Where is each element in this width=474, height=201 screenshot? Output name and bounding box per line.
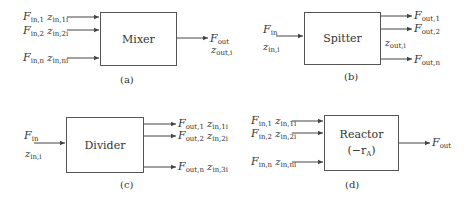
divider-label: Divider	[85, 139, 126, 152]
divider-output-2-label: Fout,2 zin,2i	[178, 130, 228, 143]
reactor-input-n-label: Fin,n zin,ni	[251, 156, 296, 169]
splitter-output-n-label: Fout,n	[414, 54, 440, 67]
reactor-output-label: Fout	[432, 137, 451, 150]
splitter-output-2-label: Fout,2	[414, 23, 440, 36]
mixer-output-z-label: zout,i	[211, 45, 232, 57]
divider-input-z-label: zin,i	[25, 149, 42, 161]
splitter-block: Spitter	[304, 12, 381, 65]
caption-d: (d)	[345, 179, 359, 190]
reactor-block: Reactor (−rA)	[324, 115, 399, 171]
reactor-label: Reactor	[340, 128, 384, 141]
mixer-block: Mixer	[100, 12, 177, 66]
splitter-shared-z-label: zout,i	[385, 39, 406, 50]
mixer-input-1-label: Fin,1 zin,1i	[23, 11, 68, 24]
caption-a: (a)	[120, 74, 134, 85]
splitter-label: Spitter	[323, 32, 362, 45]
caption-c: (c)	[120, 179, 133, 190]
mixer-label: Mixer	[122, 33, 155, 46]
splitter-input-F-label: Fin	[263, 24, 277, 37]
divider-input-F-label: Fin	[24, 130, 38, 143]
mixer-input-2-label: Fin,2 zin,2i	[23, 25, 68, 38]
divider-block: Divider	[66, 117, 144, 173]
splitter-input-z-label: zin,i	[263, 42, 280, 54]
reactor-rate-label: (−rA)	[347, 144, 375, 158]
reactor-input-2-label: Fin,2 zin,2i	[251, 128, 296, 141]
caption-b: (b)	[344, 71, 358, 82]
divider-output-n-label: Fout,n zin,3i	[178, 161, 228, 174]
mixer-input-n-label: Fin,n zin,ni	[23, 52, 68, 65]
